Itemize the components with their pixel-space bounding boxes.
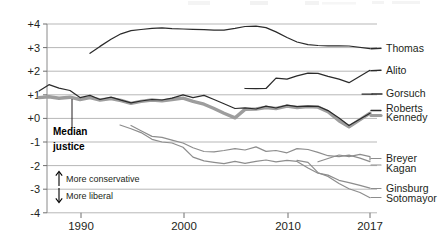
legend-swatches [371, 48, 382, 197]
arrow-up-icon [56, 171, 62, 186]
x-axis [81, 213, 370, 218]
series-label-alito: Alito [386, 64, 407, 76]
median-justice-label-line1: Median [53, 126, 87, 137]
supreme-court-ideology-chart: +4 +3 +2 +1 +0 -1 -2 -3 -4 1990 2000 201… [0, 0, 444, 247]
y-tick-label: -3 [30, 183, 40, 195]
cut-off-title-sliver [188, 1, 420, 5]
x-tick-label: 2000 [171, 220, 197, 232]
series-line-alito [245, 70, 370, 88]
y-tick-label: +3 [27, 42, 40, 54]
x-tick-label: 1990 [68, 220, 94, 232]
y-tick-label: -2 [30, 160, 40, 172]
series-line-thomas [90, 26, 370, 53]
legend-swatch-thomas [371, 48, 381, 49]
y-tick-label: -1 [30, 136, 40, 148]
y-axis [43, 24, 47, 213]
more-conservative-label: More conservative [66, 174, 140, 184]
y-tick-label: -4 [30, 207, 40, 219]
y-tick-labels: +4 +3 +2 +1 +0 -1 -2 -3 -4 [27, 18, 40, 219]
median-justice-annotation: Median justice [52, 99, 87, 152]
series-label-gorsuch: Gorsuch [386, 87, 426, 99]
y-tick-label: +2 [27, 65, 40, 77]
x-tick-label: 2017 [357, 220, 383, 232]
x-tick-labels: 1990 2000 2010 2017 [68, 220, 383, 232]
series-label-kennedy: Kennedy [386, 111, 428, 123]
direction-annotations: More conservative More liberal [56, 171, 140, 202]
series-label-sotomayor: Sotomayor [386, 192, 437, 204]
more-liberal-label: More liberal [66, 191, 113, 201]
series-lines [39, 26, 372, 198]
y-tick-label: +4 [27, 18, 40, 30]
median-justice-label-line2: justice [52, 141, 85, 152]
x-tick-label: 2010 [275, 220, 301, 232]
series-line-kennedy [39, 97, 370, 127]
series-label-thomas: Thomas [386, 42, 424, 54]
series-labels: Thomas Alito Gorsuch Roberts Kennedy Bre… [386, 42, 437, 204]
chart-canvas: +4 +3 +2 +1 +0 -1 -2 -3 -4 1990 2000 201… [0, 0, 444, 247]
y-tick-label: +0 [27, 112, 40, 124]
gridlines [47, 24, 377, 213]
arrow-down-icon [56, 188, 62, 203]
series-label-kagan: Kagan [386, 162, 417, 174]
